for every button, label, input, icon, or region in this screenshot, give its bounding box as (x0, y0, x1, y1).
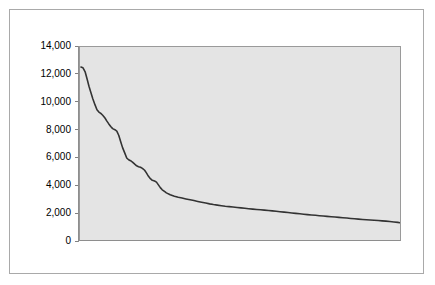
y-axis-tick-label: 10,000 (40, 97, 75, 107)
figure-frame: 14,00012,00010,0008,0006,0004,0002,0000 (9, 9, 424, 274)
data-series-line (81, 67, 400, 223)
y-axis-tick-label: 8,000 (46, 125, 75, 135)
y-axis-tick-label: 4,000 (46, 180, 75, 190)
y-axis-tick-label: 12,000 (40, 69, 75, 79)
plot-area (79, 46, 401, 241)
y-axis-tick-label: 14,000 (40, 41, 75, 51)
y-axis: 14,00012,00010,0008,0006,0004,0002,0000 (10, 46, 79, 241)
y-axis-tick-label: 0 (65, 236, 75, 246)
chart-area: 14,00012,00010,0008,0006,0004,0002,0000 (10, 10, 423, 273)
y-axis-tick-label: 6,000 (46, 152, 75, 162)
chart-window: 14,00012,00010,0008,0006,0004,0002,0000 (0, 0, 435, 285)
line-chart-svg (80, 47, 400, 240)
y-axis-tick-label: 2,000 (46, 208, 75, 218)
